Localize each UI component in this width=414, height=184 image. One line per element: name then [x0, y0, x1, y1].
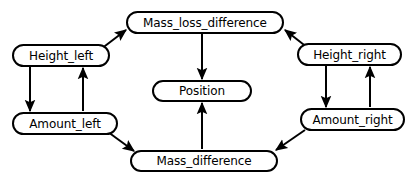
node-height_left: Height_left — [12, 44, 110, 67]
node-label-amount_left: Amount_left — [29, 118, 101, 130]
node-label-mass_difference: Mass_difference — [156, 155, 251, 167]
node-label-mass_loss_difference: Mass_loss_difference — [143, 17, 267, 29]
node-position: Position — [152, 80, 252, 102]
node-amount_right: Amount_right — [300, 108, 405, 131]
node-mass_loss_difference: Mass_loss_difference — [126, 11, 284, 34]
node-label-height_left: Height_left — [29, 50, 93, 62]
node-amount_left: Amount_left — [12, 112, 118, 135]
causal-graph-diagram: Mass_loss_differenceHeight_leftHeight_ri… — [0, 0, 414, 184]
node-label-height_right: Height_right — [313, 49, 386, 61]
node-mass_difference: Mass_difference — [130, 150, 278, 172]
node-label-amount_right: Amount_right — [312, 114, 392, 126]
edge-amount_left-to-mass_difference — [108, 132, 134, 151]
node-label-position: Position — [179, 85, 225, 97]
node-height_right: Height_right — [297, 43, 402, 66]
edge-amount_right-to-mass_difference — [276, 130, 305, 150]
